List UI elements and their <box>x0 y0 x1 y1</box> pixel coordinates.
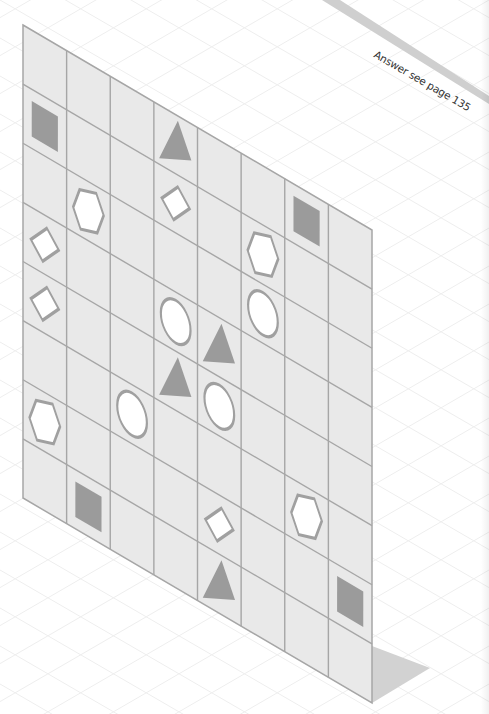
page-gutter-shade <box>481 0 489 714</box>
puzzle-illustration: Answer see page 135 <box>0 0 489 714</box>
panel-shadow <box>372 646 430 703</box>
puzzle-grid-panel <box>0 0 489 714</box>
